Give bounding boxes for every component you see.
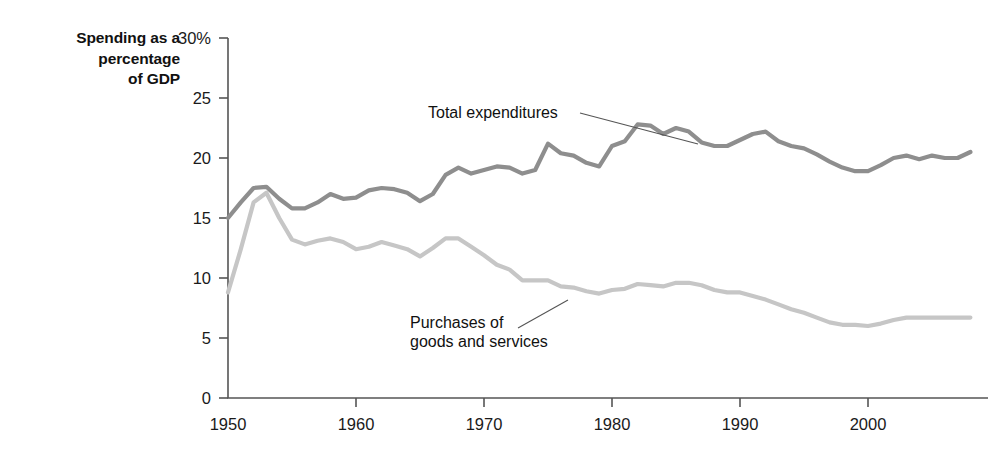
x-tick-label-1950: 1950 [178,416,278,433]
series-annotation-total-expenditures: Total expenditures [428,103,558,122]
plot-area [228,38,988,398]
y-tick-label-30: 30% [99,30,211,47]
y-tick-label-0: 0 [99,390,211,407]
axis-spine [228,38,988,398]
chart-canvas [228,38,988,398]
x-tick-label-1960: 1960 [306,416,406,433]
x-tick-label-1970: 1970 [434,416,534,433]
y-tick-label-15: 15 [99,210,211,227]
y-tick-label-20: 20 [99,150,211,167]
x-tick-label-1990: 1990 [690,416,790,433]
series-line-total-expenditures [228,124,970,218]
y-tick-label-10: 10 [99,270,211,287]
series-line-purchases [228,193,970,326]
x-tick-label-1980: 1980 [562,416,662,433]
x-tick-label-2000: 2000 [818,416,918,433]
y-tick-label-25: 25 [99,90,211,107]
series-annotation-purchases: Purchases of goods and services [410,313,548,351]
chart-figure: Spending as a percentage of GDP 30%25201… [0,0,993,463]
y-tick-label-5: 5 [99,330,211,347]
